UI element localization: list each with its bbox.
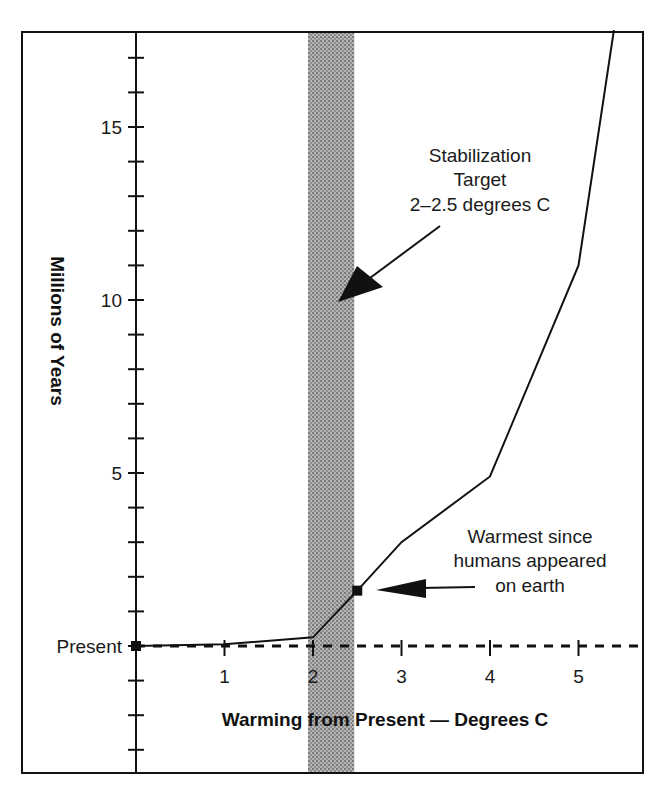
x-axis-tick-labels: 12345 [219, 666, 584, 687]
y-tick-label: 5 [111, 463, 122, 484]
annotation-line: 2–2.5 degrees C [410, 194, 551, 215]
annotation-warmest-since-humans: Warmest since humans appeared on earth [376, 526, 607, 598]
y-tick-label: 15 [101, 117, 122, 138]
x-tick-label: 2 [308, 666, 319, 687]
annotation-line: Target [454, 169, 508, 190]
x-axis-title: Warming from Present — Degrees C [222, 709, 549, 730]
arrow-head-icon [376, 579, 426, 598]
arrow-shaft [370, 226, 440, 278]
x-tick-label: 4 [485, 666, 496, 687]
annotation-stabilization-target: Stabilization Target 2–2.5 degrees C [338, 145, 550, 302]
stabilization-target-band [308, 31, 354, 773]
y-tick-label: 10 [101, 290, 122, 311]
y-tick-label: Present [57, 636, 123, 657]
annotation-line: Warmest since [468, 526, 593, 547]
arrow-shaft [420, 587, 475, 588]
x-tick-label: 5 [573, 666, 584, 687]
x-tick-label: 3 [396, 666, 407, 687]
annotation-line: on earth [495, 575, 565, 596]
data-marker [352, 586, 362, 596]
x-tick-label: 1 [219, 666, 230, 687]
chart: Present51015 12345 Warming from Present … [0, 0, 657, 794]
annotation-line: Stabilization [429, 145, 531, 166]
y-axis-title: Millions of Years [47, 256, 68, 406]
x-axis-ticks [225, 640, 579, 656]
annotation-line: humans appeared [453, 550, 606, 571]
data-marker [131, 641, 141, 651]
